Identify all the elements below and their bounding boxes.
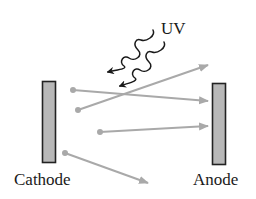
photon-wave-2 — [120, 42, 165, 86]
photoelectric-diagram: UV Cathode Anode — [0, 0, 256, 199]
cathode-label: Cathode — [14, 170, 71, 189]
uv-label: UV — [161, 19, 186, 38]
electron-path-2 — [75, 65, 208, 113]
anode-label: Anode — [193, 170, 238, 189]
electron-path-4 — [62, 150, 148, 183]
uv-photons — [108, 30, 165, 86]
cathode-plate — [43, 82, 56, 163]
electron-path-3 — [97, 126, 208, 135]
anode-plate — [213, 84, 226, 165]
electron-dot — [62, 150, 68, 156]
photon-wave-1 — [108, 30, 154, 72]
electron-trajectories — [62, 65, 208, 183]
electron-dot — [97, 129, 103, 135]
electron-dot — [70, 87, 76, 93]
electron-dot — [75, 107, 81, 113]
